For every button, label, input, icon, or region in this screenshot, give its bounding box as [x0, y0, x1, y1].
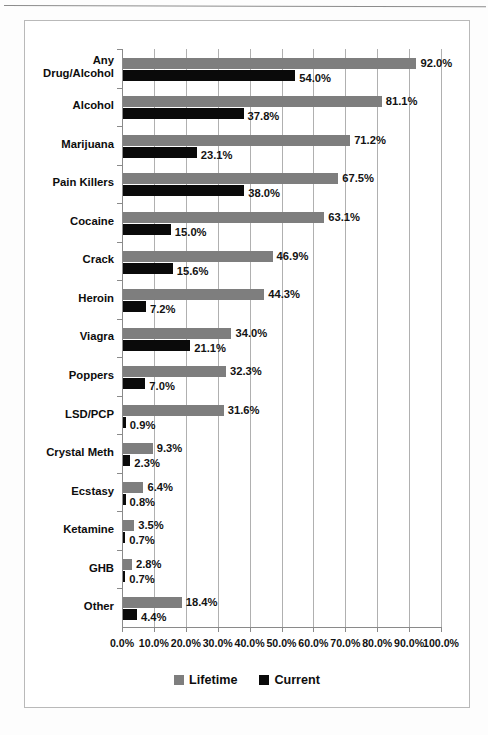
bar-lifetime[interactable] — [123, 405, 224, 416]
bar-value-label-current: 0.8% — [130, 497, 156, 508]
bar-value-label-lifetime: 92.0% — [420, 58, 452, 69]
category-label: Marijuana — [0, 138, 114, 151]
bar-value-label-lifetime: 67.5% — [342, 173, 374, 184]
bar-value-label-lifetime: 46.9% — [277, 251, 309, 262]
bar-value-label-current: 0.9% — [130, 420, 156, 431]
legend-swatch-icon — [259, 675, 269, 685]
bar-value-label-current: 4.4% — [141, 612, 167, 623]
bar-current[interactable] — [123, 455, 130, 466]
category-label: Pain Killers — [0, 176, 114, 189]
bar-value-label-lifetime: 18.4% — [186, 597, 218, 608]
category-label: Any Drug/Alcohol — [0, 54, 114, 80]
x-tick-0 — [122, 627, 123, 632]
category-tick — [117, 165, 122, 166]
category-group: Heroin44.3%7.2% — [122, 280, 441, 319]
category-tick — [117, 357, 122, 358]
legend-item[interactable]: Lifetime — [174, 673, 237, 687]
category-label: LSD/PCP — [0, 408, 114, 421]
category-label: Viagra — [0, 330, 114, 343]
category-label: Other — [0, 600, 114, 613]
bar-current[interactable] — [123, 609, 137, 620]
bar-lifetime[interactable] — [123, 520, 134, 531]
category-group: Any Drug/Alcohol92.0%54.0% — [122, 49, 441, 88]
bar-current[interactable] — [123, 494, 126, 505]
bar-current[interactable] — [123, 571, 125, 582]
bar-value-label-lifetime: 6.4% — [147, 482, 173, 493]
bar-lifetime[interactable] — [123, 96, 382, 107]
bar-value-label-current: 23.1% — [201, 150, 233, 161]
category-group: Viagra34.0%21.1% — [122, 319, 441, 358]
bar-lifetime[interactable] — [123, 443, 153, 454]
legend-label: Lifetime — [189, 673, 237, 687]
category-label: Ecstasy — [0, 485, 114, 498]
bar-lifetime[interactable] — [123, 597, 182, 608]
bar-current[interactable] — [123, 70, 295, 81]
category-label: GHB — [0, 562, 114, 575]
bar-value-label-lifetime: 9.3% — [157, 443, 183, 454]
bar-value-label-current: 7.2% — [150, 304, 176, 315]
bar-current[interactable] — [123, 263, 173, 274]
chart-frame: Any Drug/Alcohol92.0%54.0%Alcohol81.1%37… — [24, 20, 470, 708]
bar-value-label-current: 15.0% — [175, 227, 207, 238]
bar-value-label-lifetime: 81.1% — [386, 96, 418, 107]
bar-lifetime[interactable] — [123, 212, 324, 223]
bar-current[interactable] — [123, 417, 126, 428]
x-tick-label: 90.0% — [394, 637, 424, 649]
x-tick-label: 20.0% — [171, 637, 201, 649]
bar-lifetime[interactable] — [123, 58, 416, 69]
x-tick-60 — [313, 627, 314, 632]
x-tick-50 — [282, 627, 283, 632]
x-tick-80 — [377, 627, 378, 632]
bar-current[interactable] — [123, 340, 190, 351]
bar-value-label-current: 7.0% — [149, 381, 175, 392]
x-tick-90 — [409, 627, 410, 632]
bar-current[interactable] — [123, 224, 171, 235]
category-label: Heroin — [0, 292, 114, 305]
x-tick-100 — [441, 627, 442, 632]
legend-swatch-icon — [174, 675, 184, 685]
category-label: Cocaine — [0, 215, 114, 228]
bar-lifetime[interactable] — [123, 251, 273, 262]
chart-plot-container: Any Drug/Alcohol92.0%54.0%Alcohol81.1%37… — [25, 21, 469, 707]
category-group: Ecstasy6.4%0.8% — [122, 473, 441, 512]
bar-lifetime[interactable] — [123, 328, 231, 339]
bar-current[interactable] — [123, 301, 146, 312]
x-tick-30 — [218, 627, 219, 632]
bar-lifetime[interactable] — [123, 289, 264, 300]
x-tick-20 — [186, 627, 187, 632]
category-label: Poppers — [0, 369, 114, 382]
bar-current[interactable] — [123, 532, 125, 543]
bar-lifetime[interactable] — [123, 366, 226, 377]
x-tick-label: 0.0% — [110, 637, 134, 649]
category-group: Other18.4%4.4% — [122, 588, 441, 627]
bar-value-label-current: 0.7% — [129, 574, 155, 585]
category-group: Ketamine3.5%0.7% — [122, 511, 441, 550]
bar-lifetime[interactable] — [123, 559, 132, 570]
bar-value-label-lifetime: 71.2% — [354, 135, 386, 146]
bar-value-label-lifetime: 34.0% — [235, 328, 267, 339]
bar-value-label-lifetime: 32.3% — [230, 366, 262, 377]
bar-current[interactable] — [123, 108, 244, 119]
bar-current[interactable] — [123, 147, 197, 158]
legend-item[interactable]: Current — [259, 673, 319, 687]
category-tick — [117, 242, 122, 243]
bar-lifetime[interactable] — [123, 482, 143, 493]
category-tick — [117, 511, 122, 512]
bar-lifetime[interactable] — [123, 173, 338, 184]
bar-value-label-current: 38.0% — [248, 188, 280, 199]
x-axis-tick-labels: 0.0%10.0%20.0%30.0%40.0%50.0%60.0%70.0%8… — [122, 637, 452, 653]
x-tick-label: 30.0% — [203, 637, 233, 649]
bar-current[interactable] — [123, 378, 145, 389]
bar-value-label-current: 15.6% — [177, 266, 209, 277]
x-tick-label: 80.0% — [362, 637, 392, 649]
bar-value-label-current: 0.7% — [129, 535, 155, 546]
category-label: Ketamine — [0, 523, 114, 536]
x-tick-label: 60.0% — [298, 637, 328, 649]
category-group: GHB2.8%0.7% — [122, 550, 441, 589]
category-group: Alcohol81.1%37.8% — [122, 88, 441, 127]
bar-lifetime[interactable] — [123, 135, 350, 146]
y-axis-line — [122, 49, 123, 627]
x-tick-label: 70.0% — [330, 637, 360, 649]
bar-current[interactable] — [123, 185, 244, 196]
bar-value-label-current: 2.3% — [134, 458, 160, 469]
